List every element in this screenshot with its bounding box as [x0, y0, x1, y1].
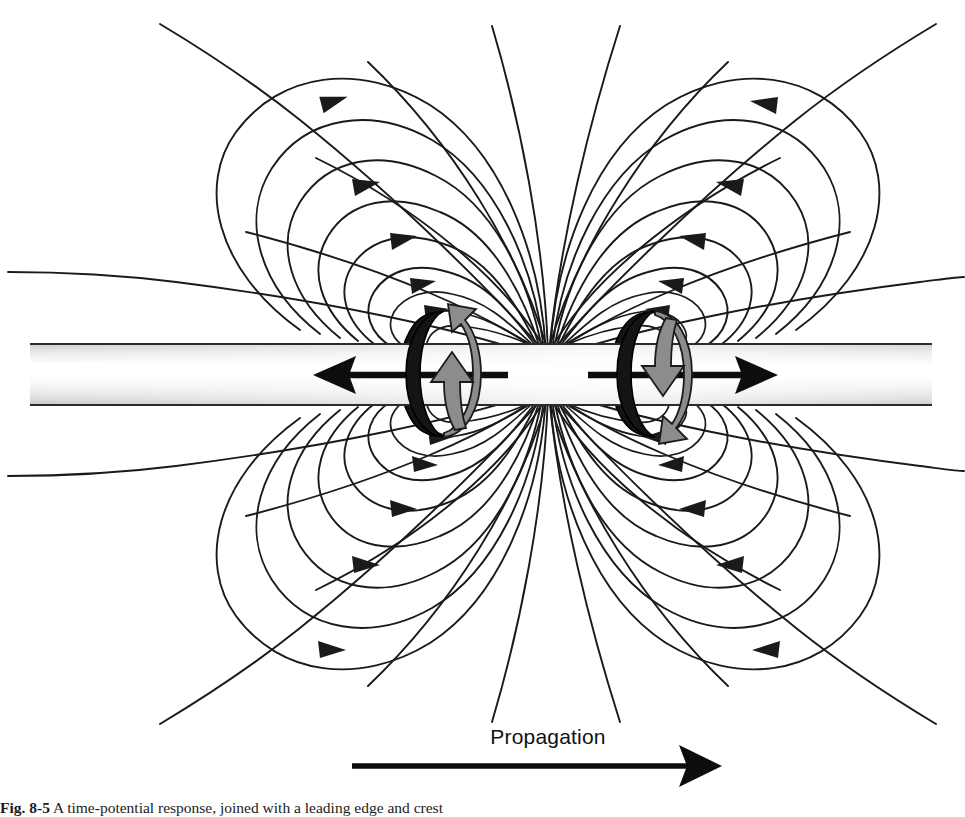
propagation-label: Propagation [490, 725, 605, 748]
field-arrowhead [390, 233, 417, 250]
lower-right-arrowheads [643, 429, 780, 658]
propagation-arrow [352, 745, 722, 787]
field-arrowhead [319, 93, 349, 114]
lower-left-arrowheads [318, 429, 453, 658]
figure-caption: Fig. 8-5 A time-potential response, join… [0, 798, 965, 817]
field-arrowhead [352, 179, 380, 196]
caption-number: Fig. 8-5 [0, 799, 50, 816]
caption-text: A time-potential response, joined with a… [53, 799, 443, 816]
